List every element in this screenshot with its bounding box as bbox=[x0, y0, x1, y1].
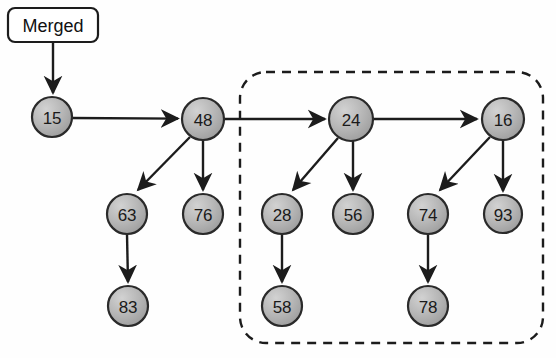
node-76[interactable]: 76 bbox=[183, 194, 223, 234]
node-15-label: 15 bbox=[43, 109, 62, 128]
edge-48-to-63 bbox=[138, 137, 190, 190]
edge-layer bbox=[53, 42, 503, 282]
node-93[interactable]: 93 bbox=[484, 195, 522, 233]
node-48-label: 48 bbox=[194, 111, 213, 130]
node-78-label: 78 bbox=[419, 298, 438, 317]
node-63[interactable]: 63 bbox=[107, 194, 147, 234]
node-28[interactable]: 28 bbox=[262, 194, 302, 234]
node-63-label: 63 bbox=[118, 206, 137, 225]
edge-16-to-74 bbox=[440, 137, 490, 190]
edge-24-to-28 bbox=[293, 138, 338, 190]
node-58-label: 58 bbox=[273, 298, 292, 317]
node-93-label: 93 bbox=[494, 206, 513, 225]
merged-label: Merged bbox=[8, 8, 98, 42]
diagram-canvas: Merged 15 48 24 16 63 bbox=[0, 0, 556, 358]
node-24[interactable]: 24 bbox=[329, 97, 373, 141]
node-83[interactable]: 83 bbox=[108, 286, 148, 326]
node-58[interactable]: 58 bbox=[262, 286, 302, 326]
node-16-label: 16 bbox=[494, 111, 513, 130]
node-48[interactable]: 48 bbox=[182, 98, 224, 140]
node-76-label: 76 bbox=[194, 206, 213, 225]
diagram-svg: Merged 15 48 24 16 63 bbox=[0, 0, 556, 358]
edge-15-to-48 bbox=[72, 118, 178, 119]
node-16[interactable]: 16 bbox=[482, 98, 524, 140]
edge-63-to-83 bbox=[127, 234, 128, 282]
node-layer: 15 48 24 16 63 76 bbox=[32, 97, 524, 326]
node-74[interactable]: 74 bbox=[408, 194, 448, 234]
node-24-label: 24 bbox=[342, 111, 361, 130]
node-78[interactable]: 78 bbox=[408, 286, 448, 326]
node-56[interactable]: 56 bbox=[333, 194, 373, 234]
node-28-label: 28 bbox=[273, 206, 292, 225]
merged-label-text: Merged bbox=[22, 16, 83, 36]
node-15[interactable]: 15 bbox=[32, 97, 72, 137]
node-56-label: 56 bbox=[344, 206, 363, 225]
node-74-label: 74 bbox=[419, 206, 438, 225]
node-83-label: 83 bbox=[119, 298, 138, 317]
